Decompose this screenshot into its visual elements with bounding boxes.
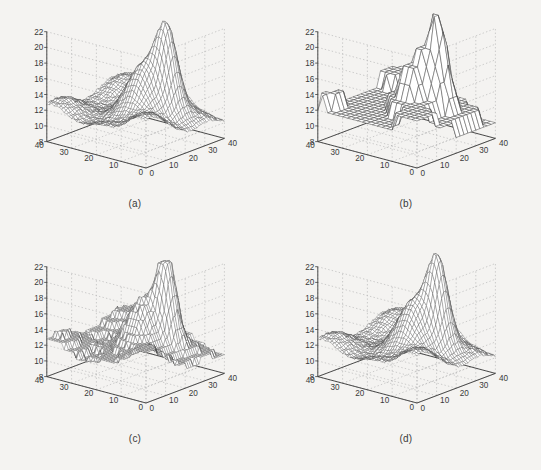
- svg-text:10: 10: [109, 161, 119, 170]
- surface-plot-panel-d: 810121416182022403020100010203040 (d): [271, 235, 541, 470]
- surface-mesh-c: 810121416182022403020100010203040: [0, 235, 270, 440]
- svg-text:10: 10: [440, 396, 450, 405]
- svg-text:12: 12: [34, 341, 44, 350]
- svg-text:10: 10: [34, 357, 44, 366]
- svg-text:0: 0: [421, 404, 426, 413]
- svg-text:12: 12: [305, 341, 315, 350]
- svg-text:10: 10: [380, 396, 390, 405]
- svg-text:20: 20: [355, 154, 365, 163]
- panel-caption-a: (a): [0, 198, 270, 209]
- svg-text:30: 30: [479, 381, 489, 390]
- surface-mesh-a: 810121416182022403020100010203040: [0, 0, 270, 205]
- plot-area-a: 810121416182022403020100010203040: [0, 0, 270, 205]
- svg-text:12: 12: [305, 106, 315, 115]
- svg-text:30: 30: [59, 383, 69, 392]
- svg-text:20: 20: [34, 43, 44, 52]
- panel-caption-b: (b): [271, 198, 541, 209]
- svg-text:22: 22: [305, 263, 315, 272]
- svg-text:18: 18: [305, 59, 315, 68]
- svg-text:20: 20: [305, 278, 315, 287]
- surface-mesh-d: 810121416182022403020100010203040: [271, 235, 541, 440]
- svg-text:20: 20: [84, 154, 94, 163]
- surface-mesh-b: 810121416182022403020100010203040: [271, 0, 541, 205]
- figure-four-surface-plots: 810121416182022403020100010203040 (a) 81…: [0, 0, 541, 470]
- svg-text:20: 20: [189, 389, 199, 398]
- svg-text:14: 14: [34, 326, 44, 335]
- mesh-surface-b: [318, 14, 496, 138]
- svg-text:18: 18: [34, 59, 44, 68]
- svg-text:40: 40: [228, 374, 238, 383]
- svg-text:0: 0: [150, 169, 155, 178]
- plot-area-c: 810121416182022403020100010203040: [0, 235, 270, 440]
- svg-text:20: 20: [305, 43, 315, 52]
- svg-text:22: 22: [305, 28, 315, 37]
- surface-plot-panel-b: 810121416182022403020100010203040 (b): [271, 0, 541, 235]
- plot-area-b: 810121416182022403020100010203040: [271, 0, 541, 205]
- svg-text:10: 10: [380, 161, 390, 170]
- svg-text:16: 16: [34, 75, 44, 84]
- svg-text:16: 16: [305, 75, 315, 84]
- svg-text:10: 10: [305, 122, 315, 131]
- svg-text:30: 30: [479, 146, 489, 155]
- panel-caption-d: (d): [271, 433, 541, 444]
- svg-text:18: 18: [34, 294, 44, 303]
- svg-text:0: 0: [409, 168, 414, 177]
- svg-text:40: 40: [499, 374, 509, 383]
- svg-text:0: 0: [421, 169, 426, 178]
- mesh-surface-c: [47, 260, 225, 368]
- surface-plot-panel-a: 810121416182022403020100010203040 (a): [0, 0, 270, 235]
- svg-text:10: 10: [440, 161, 450, 170]
- svg-text:20: 20: [460, 389, 470, 398]
- svg-text:16: 16: [305, 310, 315, 319]
- svg-text:22: 22: [34, 263, 44, 272]
- svg-text:20: 20: [189, 154, 199, 163]
- svg-text:0: 0: [138, 168, 143, 177]
- surface-plot-panel-c: 810121416182022403020100010203040 (c): [0, 235, 270, 470]
- svg-text:10: 10: [169, 161, 179, 170]
- svg-text:40: 40: [35, 376, 45, 385]
- svg-text:30: 30: [330, 148, 340, 157]
- svg-text:40: 40: [306, 376, 316, 385]
- svg-text:20: 20: [355, 389, 365, 398]
- svg-text:0: 0: [150, 404, 155, 413]
- svg-text:30: 30: [330, 383, 340, 392]
- svg-text:14: 14: [305, 326, 315, 335]
- svg-text:40: 40: [228, 139, 238, 148]
- mesh-surface-d: [318, 254, 496, 368]
- svg-text:0: 0: [409, 403, 414, 412]
- svg-text:10: 10: [169, 396, 179, 405]
- svg-text:10: 10: [109, 396, 119, 405]
- svg-text:10: 10: [34, 122, 44, 131]
- svg-text:20: 20: [460, 154, 470, 163]
- svg-text:40: 40: [35, 141, 45, 150]
- svg-text:22: 22: [34, 28, 44, 37]
- svg-text:16: 16: [34, 310, 44, 319]
- panel-caption-c: (c): [0, 433, 270, 444]
- svg-text:40: 40: [306, 141, 316, 150]
- plot-area-d: 810121416182022403020100010203040: [271, 235, 541, 440]
- svg-text:10: 10: [305, 357, 315, 366]
- svg-text:20: 20: [34, 278, 44, 287]
- svg-text:30: 30: [208, 146, 218, 155]
- svg-text:30: 30: [59, 148, 69, 157]
- svg-text:12: 12: [34, 106, 44, 115]
- svg-text:30: 30: [208, 381, 218, 390]
- svg-text:0: 0: [138, 403, 143, 412]
- svg-text:14: 14: [305, 91, 315, 100]
- svg-text:20: 20: [84, 389, 94, 398]
- mesh-surface-a: [47, 21, 225, 132]
- svg-text:18: 18: [305, 294, 315, 303]
- svg-text:14: 14: [34, 91, 44, 100]
- svg-text:40: 40: [499, 139, 509, 148]
